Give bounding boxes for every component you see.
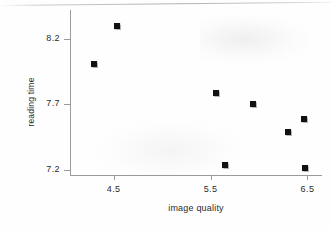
data-point bbox=[301, 116, 307, 122]
y-axis-title: reading time bbox=[26, 77, 36, 126]
scatter-plot-figure: 7.27.78.24.55.56.5 reading time image qu… bbox=[0, 0, 331, 231]
data-point bbox=[285, 129, 291, 135]
data-point bbox=[302, 165, 308, 171]
data-point bbox=[250, 101, 256, 107]
x-axis-title: image quality bbox=[168, 203, 224, 213]
data-point bbox=[222, 162, 228, 168]
data-point bbox=[114, 23, 120, 29]
data-points-layer bbox=[0, 0, 331, 231]
data-point bbox=[213, 90, 219, 96]
data-point bbox=[91, 61, 97, 67]
